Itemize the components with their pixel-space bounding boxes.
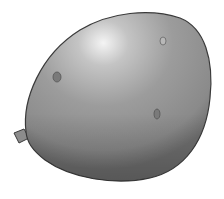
spot-lower-right [154,109,160,119]
spot-top-right [160,37,166,45]
spot-left [53,72,61,82]
balloon-illustration [0,0,224,199]
